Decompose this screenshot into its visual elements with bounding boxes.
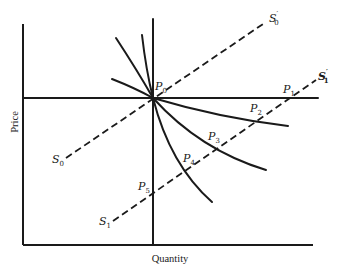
label-s0-prime: S′0: [269, 10, 279, 27]
label-p3: P3: [207, 130, 220, 145]
label-s1-prime: S′1: [318, 67, 329, 85]
label-p4: P4: [182, 152, 195, 167]
demand-curve-p3: [116, 38, 266, 170]
supply-demand-diagram: P0 P1 P2 P3 P4 P5 S0 S′0 S1 S′1 Quantity…: [0, 0, 340, 272]
y-axis-label: Price: [9, 111, 20, 133]
label-s1: S1: [99, 215, 111, 230]
x-axis-label: Quantity: [152, 253, 189, 264]
label-s0: S0: [52, 153, 64, 168]
label-p2: P2: [249, 102, 262, 117]
label-p5: P5: [137, 180, 150, 195]
supply-line-s1: [113, 80, 316, 221]
label-p0: P0: [154, 80, 167, 95]
demand-curve-p2: [112, 79, 288, 126]
label-p1: P1: [282, 83, 295, 98]
